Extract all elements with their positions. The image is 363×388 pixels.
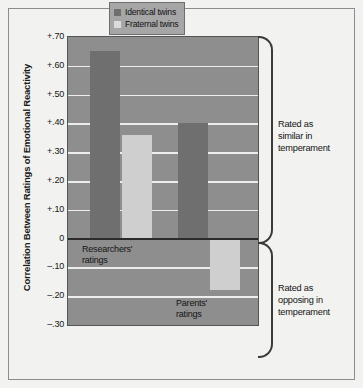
annotation-similar: Rated as similar in temperament <box>278 118 330 154</box>
y-axis-tick-labels: +.70+.60+.50+.40+.30+.20+.100–.10–.20–.3… <box>30 30 64 354</box>
bar-fraternal-0 <box>122 135 152 239</box>
plot-area: Researchers'ratingsParents'ratings <box>67 36 259 326</box>
figure: Correlation Between Ratings of Emotional… <box>0 0 363 388</box>
legend-swatch-fraternal <box>114 21 121 28</box>
annotation-similar-line1: Rated as <box>278 118 330 130</box>
group-label-parents-line2: ratings <box>176 309 207 320</box>
annotation-similar-line2: similar in <box>278 130 330 142</box>
group-label-parents: Parents'ratings <box>176 298 207 320</box>
bracket-similar <box>258 36 273 244</box>
legend-swatch-identical <box>114 9 121 16</box>
annotation-opposing-line1: Rated as <box>278 282 330 294</box>
y-tick-label: +.60 <box>30 60 64 70</box>
zero-axis-line <box>68 238 258 240</box>
annotation-similar-line3: temperament <box>278 142 330 154</box>
y-tick-label: –.20 <box>30 290 64 300</box>
group-label-researchers-line1: Researchers' <box>82 244 132 255</box>
legend: Identical twins Fraternal twins <box>109 2 185 35</box>
annotation-opposing-line2: opposing in <box>278 294 330 306</box>
group-label-researchers: Researchers'ratings <box>82 244 132 266</box>
legend-item-fraternal: Fraternal twins <box>114 18 178 30</box>
annotation-opposing-line3: temperament <box>278 306 330 318</box>
y-tick-label: +.10 <box>30 204 64 214</box>
legend-label-identical: Identical twins <box>125 7 176 17</box>
group-label-researchers-line2: ratings <box>82 255 132 266</box>
legend-item-identical: Identical twins <box>114 6 178 18</box>
bracket-opposing <box>258 242 273 358</box>
y-tick-label: 0 <box>30 233 64 243</box>
y-tick-label: +.70 <box>30 31 64 41</box>
y-tick-label: +.50 <box>30 89 64 99</box>
y-tick-label: –.10 <box>30 261 64 271</box>
gridline <box>68 296 258 298</box>
bar-fraternal-1 <box>210 239 240 291</box>
group-label-parents-line1: Parents' <box>176 298 207 309</box>
bar-identical-0 <box>90 51 120 238</box>
legend-label-fraternal: Fraternal twins <box>125 19 178 29</box>
y-tick-label: +.30 <box>30 146 64 156</box>
y-tick-label: +.40 <box>30 117 64 127</box>
bar-identical-1 <box>178 123 208 238</box>
y-tick-label: –.30 <box>30 319 64 329</box>
y-tick-label: +.20 <box>30 175 64 185</box>
annotation-opposing: Rated as opposing in temperament <box>278 282 330 318</box>
